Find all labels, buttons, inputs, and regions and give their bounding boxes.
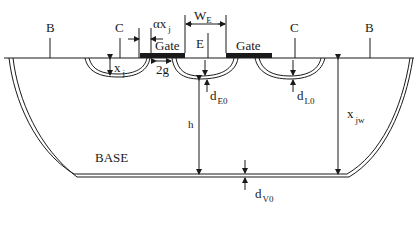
label-de0: dE0: [210, 88, 228, 106]
label-dl0: dL0: [297, 88, 315, 106]
label-h: h: [188, 118, 194, 130]
gate-left: [140, 53, 185, 58]
label-alpha-xj: αxj: [153, 16, 171, 34]
label-xj: xj: [114, 60, 125, 78]
label-we: WE: [194, 8, 212, 25]
gate-right: [226, 53, 272, 58]
label-2g: 2g: [156, 62, 170, 77]
label-dv0: dV0: [255, 186, 274, 204]
label-base-right: B: [365, 20, 374, 35]
label-emitter: E: [196, 36, 204, 51]
label-gate-right: Gate: [236, 38, 261, 53]
label-collector-right: C: [290, 20, 299, 35]
label-collector-left: C: [115, 20, 124, 35]
collector-well-right: [255, 58, 325, 79]
label-base-left: B: [46, 20, 55, 35]
label-xjw: xjw: [347, 106, 365, 125]
transistor-cross-section-diagram: B C E C B Gate Gate αxj WE xj 2g dE0 dL0…: [0, 0, 415, 231]
label-gate-left: Gate: [155, 38, 180, 53]
label-base-region: BASE: [95, 150, 128, 165]
